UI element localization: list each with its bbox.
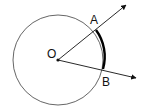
ray-ob <box>58 60 136 78</box>
label-a: A <box>90 13 98 27</box>
label-b: B <box>102 75 110 89</box>
diagram-canvas: O A B <box>0 0 145 108</box>
center-point <box>56 58 59 61</box>
label-o: O <box>47 47 56 61</box>
arc-ab <box>96 30 105 69</box>
